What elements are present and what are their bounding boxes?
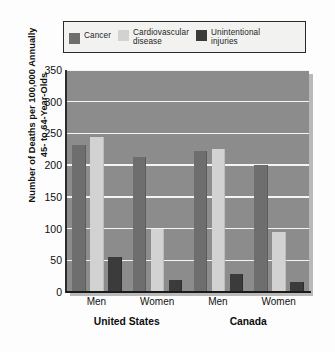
gridline [66,70,309,71]
legend-label-cancer: Cancer [84,31,111,40]
x-axis-tick-label: Women [140,296,174,307]
bar [194,151,208,292]
bar [230,274,244,292]
chart-figure: Cancer Cardiovascular disease Unintentio… [0,0,335,352]
x-axis-tick-label: Men [87,296,106,307]
plot-area [66,70,309,292]
bar [108,257,122,292]
y-axis-tick-label: 0 [26,286,62,298]
bar [90,137,104,292]
x-axis-line [66,291,311,293]
legend-swatch-cancer [69,33,80,44]
legend-item-cardiovascular: Cardiovascular disease [118,28,189,46]
legend-label-injuries: Unintentional injuries [211,28,260,46]
legend-swatch-injuries [196,30,207,41]
y-axis-tick-labels: 050100150200250300350 [22,0,62,352]
bar [72,145,86,292]
y-axis-tick-label: 100 [26,223,62,235]
legend-label-cardiovascular: Cardiovascular disease [133,28,189,46]
chart-legend: Cancer Cardiovascular disease Unintentio… [63,21,306,53]
x-axis-tick-label: Men [208,296,227,307]
bar [212,149,226,292]
gridline [66,133,309,134]
y-axis-tick-label: 300 [26,96,62,108]
y-axis-tick-label: 50 [26,254,62,266]
y-axis-tick-label: 350 [26,64,62,76]
y-axis-tick-label: 150 [26,191,62,203]
bar [133,157,147,292]
x-axis-tick-label: Women [261,296,295,307]
x-axis-group-label: Canada [230,316,267,327]
bar [151,229,165,292]
gridline [66,101,309,102]
legend-item-injuries: Unintentional injuries [196,28,260,46]
x-axis-group-label: United States [94,316,160,327]
y-axis-tick-label: 250 [26,127,62,139]
legend-item-cancer: Cancer [69,31,111,44]
y-axis-tick-label: 200 [26,159,62,171]
y-axis-line [65,70,67,293]
bar [272,232,286,292]
bar [254,165,268,292]
legend-swatch-cardiovascular [118,30,129,41]
